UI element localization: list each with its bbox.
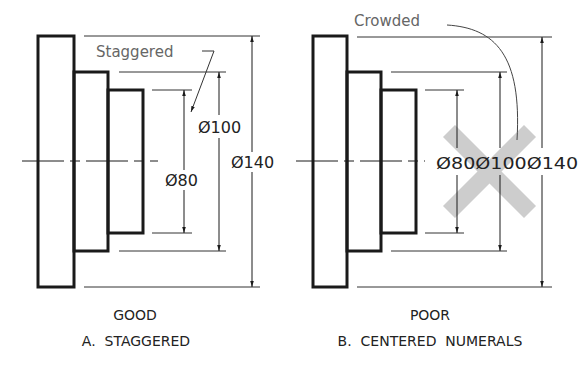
dimensioning-diagram: Staggered Ø100 Ø140 Ø80 GOOD A. STAGGERE… [0,0,585,375]
caption-a: A. STAGGERED [82,333,190,349]
figure-a-staggered: Staggered Ø100 Ø140 Ø80 GOOD A. STAGGERE… [22,36,274,349]
crowded-note: Crowded [354,12,420,30]
figure-b-centered-numerals: Crowded Ø80Ø100Ø140 POOR B. CENTERED NUM… [296,12,581,349]
dim-label-combined: Ø80Ø100Ø140 [436,154,578,173]
staggered-leader [191,51,214,112]
verdict-good: GOOD [113,307,157,323]
crowded-leader [447,25,518,140]
dim-label-80: Ø80 [165,171,198,190]
verdict-poor: POOR [410,307,450,323]
caption-b: B. CENTERED NUMERALS [338,333,523,349]
dim-label-140: Ø140 [231,153,274,172]
dim-label-100: Ø100 [198,118,241,137]
staggered-note: Staggered [96,43,173,61]
